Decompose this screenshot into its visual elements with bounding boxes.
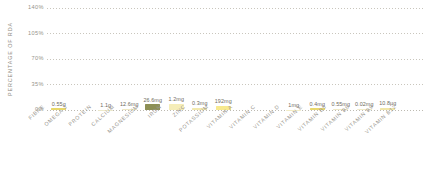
y-axis-title: PERCENTAGE OF RDA (0, 0, 20, 118)
x-axis-label: IRON (147, 102, 165, 119)
bars-group: 0.55g1.1g12.6mg26.6mg1.2mg0.3mg192mg1mg0… (47, 8, 423, 110)
y-axis-tick-label: 140% (20, 5, 47, 11)
x-axis-labels-group: FIBREOMEGA 3PROTEINCALCIUMMAGNESIUMIRONZ… (27, 102, 403, 171)
bar-group[interactable] (404, 109, 419, 111)
y-axis-tick-label: 70% (20, 56, 47, 62)
nutrition-rda-bar-chart: PERCENTAGE OF RDA 0%35%70%105%140% 0.55g… (0, 0, 423, 171)
x-axis-label: ZINC (171, 102, 188, 118)
y-axis-tick-label: 105% (20, 31, 47, 37)
y-axis-title-text: PERCENTAGE OF RDA (7, 22, 13, 96)
x-axis-label-text: IRON (147, 102, 165, 119)
x-axis-label-text: ZINC (171, 102, 188, 118)
x-axis-label-text: FIBRE (27, 102, 47, 121)
y-axis-tick-label: 35% (20, 82, 47, 88)
x-axis-label: FIBRE (27, 102, 47, 121)
